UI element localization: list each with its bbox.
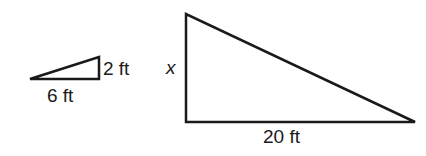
large-base-label: 20 ft xyxy=(263,127,300,146)
large-height-label: x xyxy=(166,58,176,77)
diagram-canvas xyxy=(0,0,426,156)
small-base-label: 6 ft xyxy=(47,86,73,105)
large-triangle xyxy=(186,14,415,122)
small-triangle xyxy=(30,57,99,79)
small-height-label: 2 ft xyxy=(103,59,129,78)
